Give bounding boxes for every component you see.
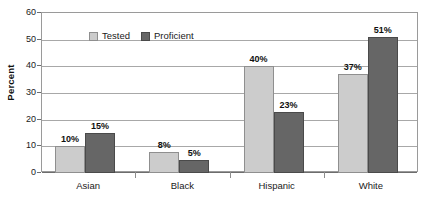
x-axis-category-label-black: Black bbox=[135, 180, 229, 191]
bar-white-proficient bbox=[368, 37, 398, 173]
bar-value-label: 40% bbox=[238, 55, 280, 64]
y-axis-tick-mark bbox=[37, 172, 41, 173]
chart-legend: TestedProficient bbox=[89, 29, 194, 43]
y-axis-tick-label: 10 bbox=[12, 141, 36, 150]
legend-item-proficient: Proficient bbox=[141, 31, 194, 41]
y-axis-tick-label: 60 bbox=[12, 8, 36, 17]
bar-hispanic-tested bbox=[244, 66, 274, 173]
y-axis-tick-mark bbox=[37, 145, 41, 146]
x-axis-category-label-asian: Asian bbox=[41, 180, 135, 191]
bar-value-label: 5% bbox=[173, 149, 215, 158]
bar-white-tested bbox=[338, 74, 368, 173]
bar-asian-tested bbox=[55, 146, 85, 173]
bar-asian-proficient bbox=[85, 133, 115, 173]
legend-item-tested: Tested bbox=[89, 31, 130, 41]
y-axis-tick-label: 20 bbox=[12, 115, 36, 124]
y-axis-tick-labels: 0102030405060 bbox=[6, 0, 36, 210]
bar-value-label: 15% bbox=[79, 122, 121, 131]
y-axis-tick-label: 40 bbox=[12, 61, 36, 70]
y-axis-tick-mark bbox=[37, 39, 41, 40]
y-axis-tick-label: 50 bbox=[12, 35, 36, 44]
legend-label: Tested bbox=[102, 31, 130, 41]
bar-chart-figure: Percent 0102030405060 10%15%8%5%40%23%37… bbox=[0, 0, 432, 210]
y-axis-tick-mark bbox=[37, 92, 41, 93]
y-axis-tick-mark bbox=[37, 12, 41, 13]
x-axis-tick-mark bbox=[230, 172, 231, 178]
bar-hispanic-proficient bbox=[274, 112, 304, 173]
legend-swatch-tested bbox=[89, 32, 98, 41]
bar-black-proficient bbox=[179, 160, 209, 173]
y-axis-tick-label: 0 bbox=[12, 168, 36, 177]
x-axis-tick-mark bbox=[135, 172, 136, 178]
y-axis-tick-mark bbox=[37, 65, 41, 66]
x-axis-category-label-hispanic: Hispanic bbox=[230, 180, 324, 191]
legend-swatch-proficient bbox=[141, 32, 150, 41]
y-axis-tick-mark bbox=[37, 119, 41, 120]
bar-value-label: 23% bbox=[268, 101, 310, 110]
legend-label: Proficient bbox=[154, 31, 194, 41]
bar-value-label: 51% bbox=[362, 26, 404, 35]
x-axis-tick-mark bbox=[324, 172, 325, 178]
plot-area: 10%15%8%5%40%23%37%51% TestedProficient bbox=[41, 12, 418, 172]
y-axis-tick-label: 30 bbox=[12, 88, 36, 97]
x-axis-category-label-white: White bbox=[324, 180, 418, 191]
